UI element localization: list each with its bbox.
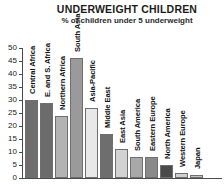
bar [100,134,113,178]
underweight-children-bar-chart: UNDERWEIGHT CHILDREN % of children under… [0,0,224,186]
bar-series: Central AfricaE. and S. AfricaNorthern A… [25,48,222,178]
y-axis-tick: 20 [22,126,23,127]
y-axis-tick-label: 10 [1,148,17,156]
y-axis-tick-label: 15 [1,135,17,143]
y-axis-tick-mark [19,48,23,49]
bar [40,103,53,178]
chart-title-block: UNDERWEIGHT CHILDREN % of children under… [0,3,224,26]
bar [55,116,68,178]
y-axis-tick-label: 5 [1,161,17,169]
bar-category-label: South Asia [74,14,82,52]
y-axis-tick: 15 [22,139,23,140]
bar-category-label: Japan [194,148,202,169]
bar [160,165,173,178]
bar-group: South America [130,48,143,178]
bar [190,175,203,178]
y-axis-tick-mark [19,113,23,114]
bar-category-label: E. and S. Africa [44,43,52,97]
y-axis-tick-label: 35 [1,83,17,91]
plot-area: 05101520253035404550 Central AfricaE. an… [22,48,222,179]
bar [70,58,83,178]
bar-category-label: Central Africa [29,46,37,94]
y-axis-tick: 30 [22,100,23,101]
y-axis-tick: 45 [22,61,23,62]
bar [130,157,143,178]
y-axis-tick: 10 [22,152,23,153]
y-axis-tick: 50 [22,48,23,49]
y-axis-tick-mark [19,152,23,153]
y-axis-tick-mark [19,87,23,88]
y-axis-tick-mark [19,74,23,75]
bar-category-label: Asia-Pacific [89,60,97,102]
bar-category-label: North America [164,108,172,159]
y-axis-tick-label: 40 [1,70,17,78]
bar-group: Asia-Pacific [85,48,98,178]
bar-group: Middle East [100,48,113,178]
bar-category-label: South America [134,99,142,151]
y-axis-tick-label: 50 [1,44,17,52]
y-axis-tick: 35 [22,87,23,88]
y-axis-tick-mark [19,61,23,62]
y-axis-tick-mark [19,126,23,127]
chart-title: UNDERWEIGHT CHILDREN [30,3,224,15]
y-axis-tick-label: 20 [1,122,17,130]
y-axis-tick-mark [19,178,23,179]
x-axis-line [22,178,222,179]
bar-group: E. and S. Africa [40,48,53,178]
bar-category-label: Northern Africa [59,56,67,110]
bar-category-label: Eastern Europe [149,96,157,151]
bar [145,157,158,178]
y-axis-tick-mark [19,139,23,140]
y-axis-tick-mark [19,100,23,101]
bar-group: Eastern Europe [145,48,158,178]
y-axis-tick: 0 [22,178,23,179]
y-axis-tick: 40 [22,74,23,75]
bar-group: East Asia [115,48,128,178]
bar-category-label: Middle East [104,87,112,128]
bar-group: Central Africa [25,48,38,178]
y-axis-tick-label: 45 [1,57,17,65]
bar [175,173,188,178]
chart-subtitle: % of children under 5 underweight [30,16,224,26]
bar-group: Japan [190,48,203,178]
bar-category-label: East Asia [119,110,127,143]
bar-category-label: Western Europe [179,110,187,167]
bar-group: North America [160,48,173,178]
y-axis-tick-mark [19,165,23,166]
y-axis-tick-label: 0 [1,174,17,182]
bar [25,100,38,178]
bar-group: Western Europe [175,48,188,178]
y-axis-tick: 5 [22,165,23,166]
y-axis-tick-label: 25 [1,109,17,117]
bar-group: Northern Africa [55,48,68,178]
y-axis-tick-label: 30 [1,96,17,104]
bar-group: South Asia [70,48,83,178]
bar [85,108,98,178]
y-axis-tick: 25 [22,113,23,114]
bar [115,149,128,178]
